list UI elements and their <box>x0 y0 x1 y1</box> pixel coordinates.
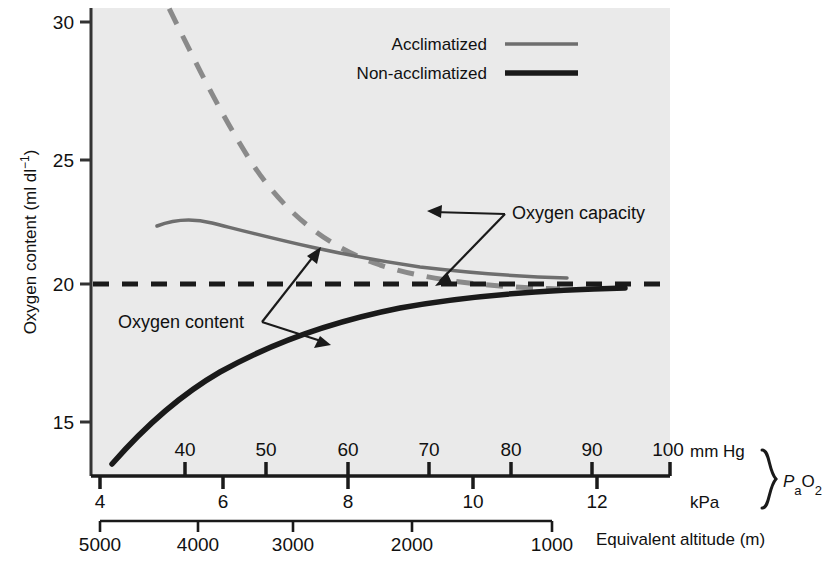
kpa-tick-label-10: 10 <box>462 491 483 512</box>
y-axis-title-superscript: −1 <box>18 155 32 169</box>
y-axis-title-tail: ) <box>21 150 40 156</box>
y-axis-title-main: Oxygen content (ml dl <box>21 169 40 334</box>
mmhg-tick-label-100: 100 <box>652 439 684 460</box>
annotation-oxygen-content-label: Oxygen content <box>118 312 244 332</box>
kpa-tick-label-12: 12 <box>586 491 607 512</box>
y-tick-label-25: 25 <box>53 150 74 171</box>
altitude-tick-label-2000: 2000 <box>391 534 433 555</box>
pao2-sub-2: 2 <box>815 483 822 498</box>
altitude-axis-title: Equivalent altitude (m) <box>596 530 765 549</box>
legend-label-non-acclimatized: Non-acclimatized <box>357 64 487 83</box>
annotation-oxygen-capacity-label: Oxygen capacity <box>512 203 645 223</box>
kpa-tick-label-4: 4 <box>95 491 106 512</box>
mmhg-tick-label-90: 90 <box>581 439 602 460</box>
mmhg-tick-label-40: 40 <box>174 439 195 460</box>
legend-label-acclimatized: Acclimatized <box>392 35 487 54</box>
altitude-tick-label-5000: 5000 <box>79 534 121 555</box>
mmhg-tick-label-70: 70 <box>418 439 439 460</box>
y-axis-title: Oxygen content (ml dl−1) <box>18 150 40 335</box>
pao2-mid: O <box>802 472 815 491</box>
altitude-tick-label-1000: 1000 <box>531 534 573 555</box>
pao2-lead: P <box>783 472 795 491</box>
kpa-tick-label-8: 8 <box>343 491 354 512</box>
y-tick-label-30: 30 <box>53 12 74 33</box>
mmhg-tick-label-60: 60 <box>337 439 358 460</box>
mmhg-tick-label-80: 80 <box>500 439 521 460</box>
kpa-tick-label-6: 6 <box>218 491 229 512</box>
y-tick-label-15: 15 <box>53 412 74 433</box>
oxygen-content-altitude-chart: 30 25 20 15 Oxygen content (ml dl−1) Acc… <box>0 0 837 561</box>
mmhg-tick-label-50: 50 <box>255 439 276 460</box>
kpa-unit-label: kPa <box>690 493 720 512</box>
svg-text:Oxygen content (ml dl−1): Oxygen content (ml dl−1) <box>18 150 40 335</box>
mmhg-unit-label: mm Hg <box>690 442 745 461</box>
altitude-tick-label-3000: 3000 <box>272 534 314 555</box>
altitude-tick-label-4000: 4000 <box>177 534 219 555</box>
chart-svg: 30 25 20 15 Oxygen content (ml dl−1) Acc… <box>0 0 837 561</box>
y-tick-label-20: 20 <box>53 274 74 295</box>
